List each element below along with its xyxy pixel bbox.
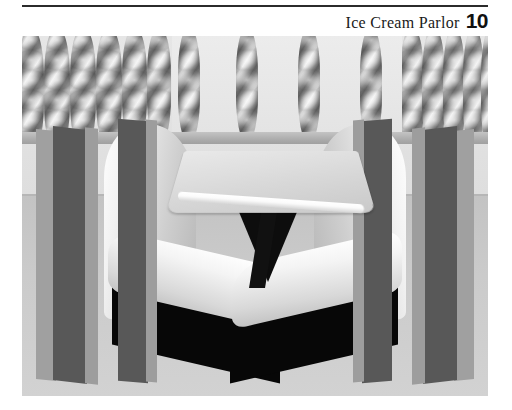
header-rule bbox=[22, 5, 488, 7]
chapter-title: Ice Cream Parlor bbox=[346, 14, 460, 32]
page-number: 10 bbox=[466, 9, 488, 33]
right-outer-post-side bbox=[412, 127, 425, 384]
header-title-group: Ice Cream Parlor 10 bbox=[346, 9, 488, 33]
pedestal-table bbox=[170, 142, 370, 292]
right-outer-post-edge bbox=[454, 129, 474, 381]
page-header: Ice Cream Parlor 10 bbox=[0, 0, 512, 36]
left-inner-post-face bbox=[118, 119, 148, 384]
left-outer-post-side bbox=[85, 127, 98, 384]
left-inner-post-side bbox=[146, 120, 157, 383]
scene-figure bbox=[22, 36, 488, 396]
right-outer-post-face bbox=[423, 126, 457, 384]
left-outer-post-face bbox=[53, 126, 87, 384]
